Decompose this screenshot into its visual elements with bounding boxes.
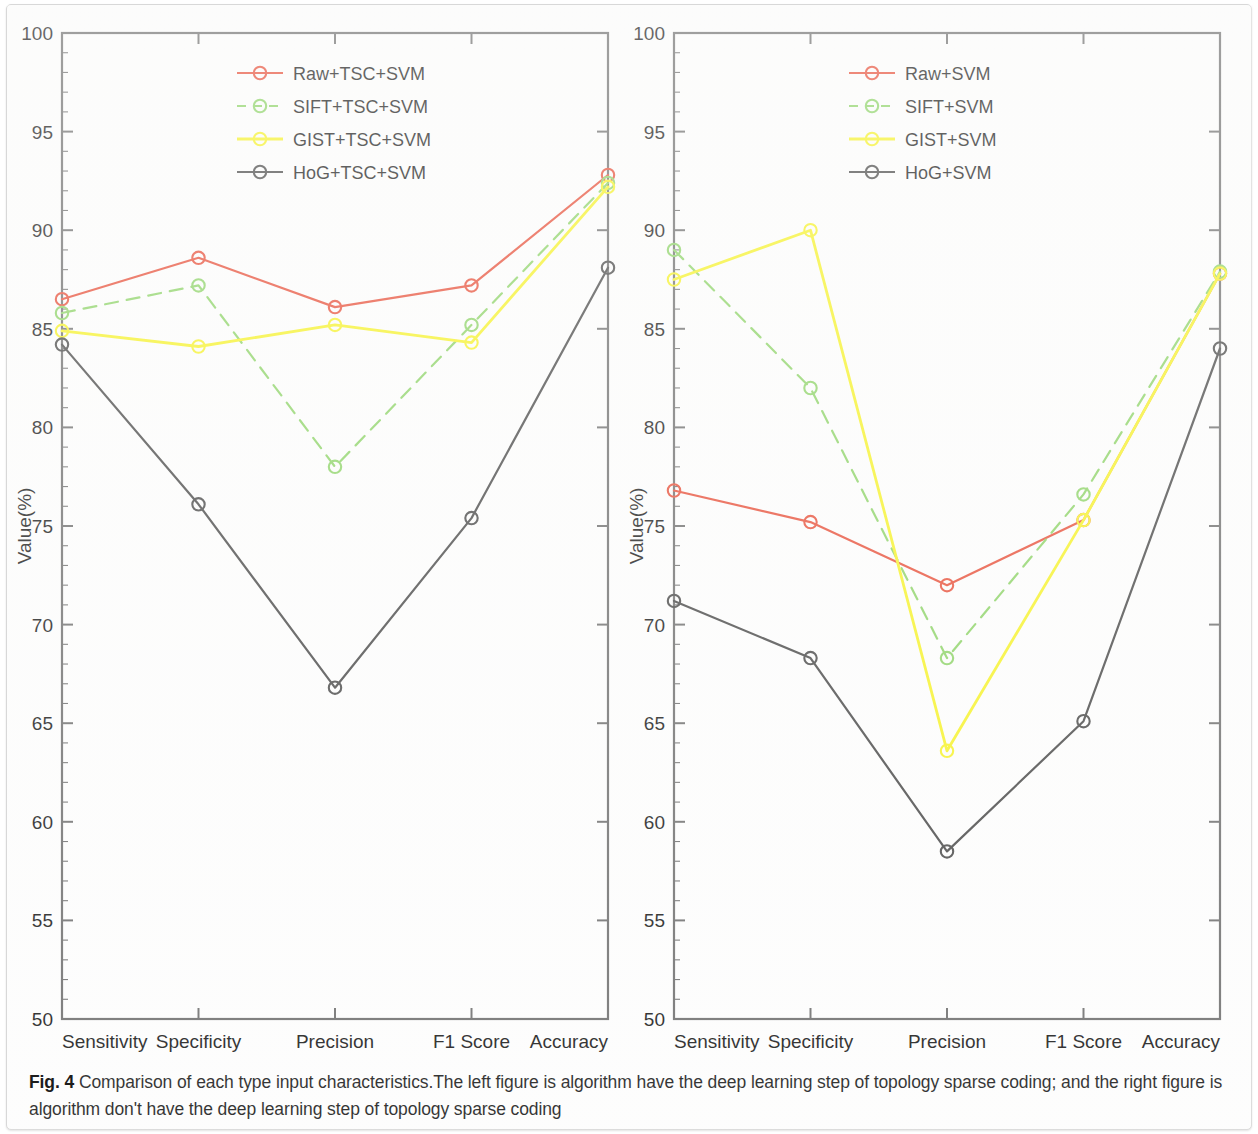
legend-item-3[interactable]: HoG+TSC+SVM: [237, 163, 426, 183]
figure-label: Fig. 4: [29, 1072, 74, 1092]
y-tick-label: 75: [644, 516, 665, 537]
y-tick-label: 60: [32, 812, 53, 833]
x-tick-label: Specificity: [768, 1031, 854, 1052]
y-tick-label: 100: [633, 23, 665, 44]
y-tick-label: 65: [644, 713, 665, 734]
y-tick-label: 100: [21, 23, 53, 44]
legend-item-2[interactable]: GIST+SVM: [849, 130, 997, 150]
figure-caption: Fig. 4 Comparison of each type input cha…: [29, 1069, 1231, 1123]
y-tick-label: 95: [32, 122, 53, 143]
y-tick-label: 60: [644, 812, 665, 833]
y-tick-label: 50: [32, 1009, 53, 1030]
chart-panel-right: 50556065707580859095100SensitivitySpecif…: [627, 5, 1245, 1061]
legend-label: HoG+TSC+SVM: [293, 163, 426, 183]
x-tick-label: F1 Score: [1045, 1031, 1122, 1052]
y-tick-label: 90: [32, 220, 53, 241]
legend-item-3[interactable]: HoG+SVM: [849, 163, 992, 183]
x-tick-label: Precision: [908, 1031, 986, 1052]
chart-panel-left: 50556065707580859095100SensitivitySpecif…: [15, 5, 633, 1061]
y-tick-label: 90: [644, 220, 665, 241]
figure-caption-text: Comparison of each type input characteri…: [29, 1072, 1222, 1119]
plots-area: 50556065707580859095100SensitivitySpecif…: [7, 5, 1253, 1061]
legend-label: HoG+SVM: [905, 163, 992, 183]
x-tick-label: Precision: [296, 1031, 374, 1052]
y-tick-label: 55: [32, 910, 53, 931]
series-marker: [804, 382, 816, 394]
legend-label: GIST+TSC+SVM: [293, 130, 431, 150]
y-tick-label: 70: [32, 615, 53, 636]
y-tick-label: 65: [32, 713, 53, 734]
y-tick-label: 80: [32, 417, 53, 438]
y-tick-label: 85: [32, 319, 53, 340]
x-tick-label: Accuracy: [530, 1031, 609, 1052]
x-tick-label: Sensitivity: [62, 1031, 148, 1052]
y-axis-title: Value(%): [15, 488, 35, 565]
legend-item-1[interactable]: SIFT+TSC+SVM: [237, 97, 428, 117]
y-tick-label: 75: [32, 516, 53, 537]
legend-item-2[interactable]: GIST+TSC+SVM: [237, 130, 431, 150]
legend-item-1[interactable]: SIFT+SVM: [849, 97, 994, 117]
legend-label: Raw+TSC+SVM: [293, 64, 425, 84]
y-tick-label: 85: [644, 319, 665, 340]
figure-caption-block: Fig. 4 Comparison of each type input cha…: [7, 1063, 1253, 1131]
x-tick-label: F1 Score: [433, 1031, 510, 1052]
legend-label: GIST+SVM: [905, 130, 997, 150]
x-tick-label: Accuracy: [1142, 1031, 1221, 1052]
legend-item-0[interactable]: Raw+TSC+SVM: [237, 64, 425, 84]
y-tick-label: 95: [644, 122, 665, 143]
series-line-0: [674, 274, 1220, 586]
series-marker: [329, 461, 341, 473]
series-line-1: [674, 250, 1220, 658]
y-axis-title: Value(%): [627, 488, 647, 565]
series-line-2: [674, 230, 1220, 751]
left-chart-svg: 50556065707580859095100SensitivitySpecif…: [15, 5, 633, 1061]
figure-card: 50556065707580859095100SensitivitySpecif…: [6, 4, 1252, 1130]
legend-label: SIFT+TSC+SVM: [293, 97, 428, 117]
y-tick-label: 80: [644, 417, 665, 438]
legend-label: Raw+SVM: [905, 64, 991, 84]
series-line-0: [62, 175, 608, 307]
y-tick-label: 70: [644, 615, 665, 636]
legend-label: SIFT+SVM: [905, 97, 994, 117]
y-tick-label: 50: [644, 1009, 665, 1030]
right-chart-svg: 50556065707580859095100SensitivitySpecif…: [627, 5, 1245, 1061]
x-tick-label: Sensitivity: [674, 1031, 760, 1052]
legend-item-0[interactable]: Raw+SVM: [849, 64, 991, 84]
y-tick-label: 55: [644, 910, 665, 931]
x-tick-label: Specificity: [156, 1031, 242, 1052]
